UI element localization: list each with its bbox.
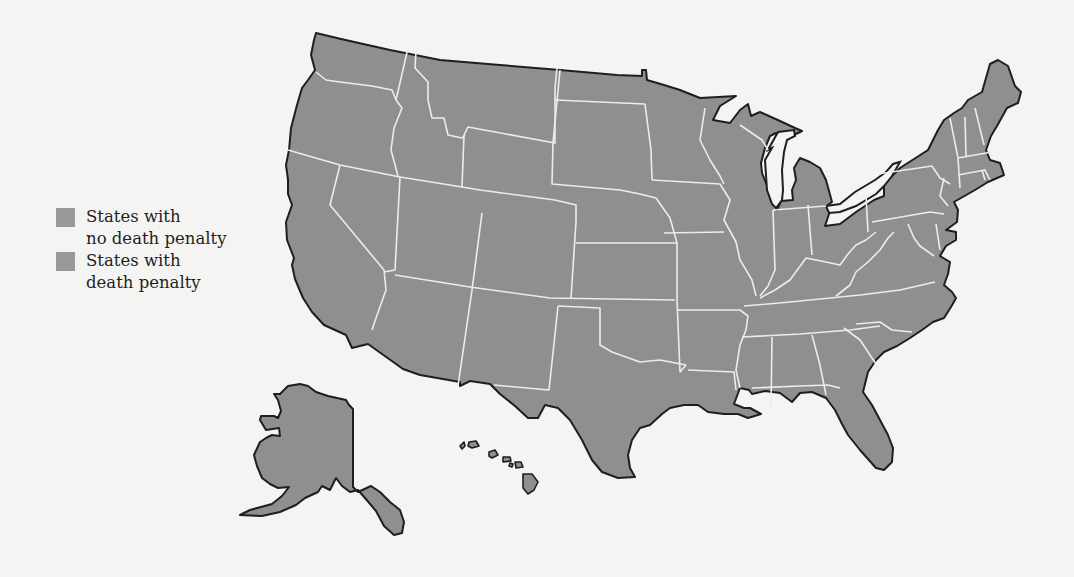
lake-michigan <box>765 130 795 208</box>
legend-label: States with no death penalty <box>86 206 266 250</box>
legend-item-no-death-penalty: States with no death penalty <box>56 206 266 250</box>
legend-item-death-penalty: States with death penalty <box>56 250 266 294</box>
legend-swatch-death-penalty <box>56 252 75 271</box>
alaska-shape <box>240 384 404 535</box>
legend-label: States with death penalty <box>86 250 266 294</box>
hawaii-shape <box>460 441 538 494</box>
legend-swatch-no-death-penalty <box>56 208 75 227</box>
map-legend: States with no death penalty States with… <box>56 206 266 294</box>
